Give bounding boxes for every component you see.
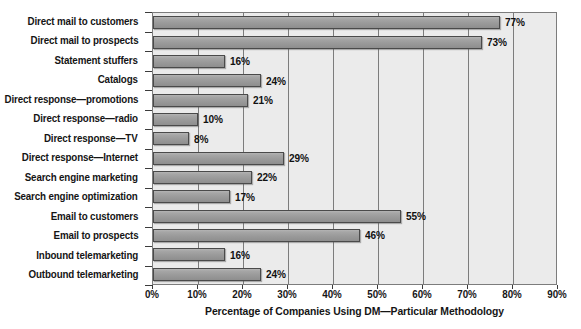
value-tick-label: 60% bbox=[412, 290, 432, 300]
bar[interactable] bbox=[153, 152, 284, 165]
value-tick-label: 80% bbox=[502, 290, 522, 300]
value-tick-label: 90% bbox=[547, 290, 567, 300]
bar-row[interactable]: 22% bbox=[153, 168, 556, 187]
value-tick-label: 0% bbox=[145, 290, 159, 300]
value-tick-label: 20% bbox=[232, 290, 252, 300]
category-tick bbox=[145, 188, 152, 189]
category-label-row: Direct mail to prospects bbox=[0, 32, 144, 52]
category-tick bbox=[145, 110, 152, 111]
bar[interactable] bbox=[153, 210, 401, 223]
bar-row[interactable]: 46% bbox=[153, 226, 556, 245]
category-tick bbox=[145, 90, 152, 91]
bar[interactable] bbox=[153, 171, 252, 184]
bar-value-label: 29% bbox=[289, 153, 309, 164]
bar-series: 77%73%16%24%21%10%8%29%22%17%55%46%16%24… bbox=[153, 13, 556, 284]
bar[interactable] bbox=[153, 248, 225, 261]
category-label-row: Direct response—Internet bbox=[0, 149, 144, 169]
bar-value-label: 8% bbox=[194, 134, 208, 145]
category-label: Catalogs bbox=[98, 75, 138, 85]
x-axis-title: Percentage of Companies Using DM—Particu… bbox=[152, 307, 557, 317]
category-label-row: Direct response—TV bbox=[0, 129, 144, 149]
category-tick bbox=[145, 246, 152, 247]
category-axis-ticks bbox=[145, 12, 152, 285]
bar-value-label: 21% bbox=[253, 95, 273, 106]
category-label-row: Direct response—promotions bbox=[0, 90, 144, 110]
bar-value-label: 24% bbox=[266, 269, 286, 280]
category-label: Search engine marketing bbox=[25, 173, 138, 183]
bar-row[interactable]: 16% bbox=[153, 245, 556, 264]
category-label: Direct response—radio bbox=[33, 114, 138, 124]
category-tick bbox=[145, 168, 152, 169]
bar-row[interactable]: 17% bbox=[153, 187, 556, 206]
bar-row[interactable]: 24% bbox=[153, 265, 556, 284]
category-label: Search engine optimization bbox=[15, 192, 138, 202]
bar-row[interactable]: 77% bbox=[153, 13, 556, 32]
bar[interactable] bbox=[153, 74, 261, 87]
bar-value-label: 77% bbox=[505, 17, 525, 28]
bar-row[interactable]: 55% bbox=[153, 207, 556, 226]
category-tick bbox=[145, 12, 152, 13]
category-label: Direct response—promotions bbox=[4, 95, 138, 105]
bar-row[interactable]: 16% bbox=[153, 52, 556, 71]
bar[interactable] bbox=[153, 190, 230, 203]
value-tick-label: 40% bbox=[322, 290, 342, 300]
category-label-row: Email to prospects bbox=[0, 227, 144, 247]
bar[interactable] bbox=[153, 113, 198, 126]
category-label: Inbound telemarketing bbox=[36, 251, 138, 261]
value-tick-label: 50% bbox=[367, 290, 387, 300]
category-label-row: Inbound telemarketing bbox=[0, 246, 144, 266]
category-label-row: Outbound telemarketing bbox=[0, 266, 144, 286]
category-label-row: Direct response—radio bbox=[0, 110, 144, 130]
bar-value-label: 10% bbox=[203, 114, 223, 125]
category-label-row: Email to customers bbox=[0, 207, 144, 227]
bar-row[interactable]: 10% bbox=[153, 110, 556, 129]
category-tick bbox=[145, 149, 152, 150]
bar[interactable] bbox=[153, 268, 261, 281]
bar-value-label: 24% bbox=[266, 76, 286, 87]
bar[interactable] bbox=[153, 16, 500, 29]
category-tick bbox=[145, 32, 152, 33]
category-tick bbox=[145, 227, 152, 228]
value-axis-labels: 0%10%20%30%40%50%60%70%80%90% bbox=[152, 290, 557, 304]
bar[interactable] bbox=[153, 229, 360, 242]
bar-row[interactable]: 8% bbox=[153, 129, 556, 148]
bar-chart: Direct mail to customersDirect mail to p… bbox=[0, 0, 581, 329]
bar[interactable] bbox=[153, 94, 248, 107]
category-label-row: Direct mail to customers bbox=[0, 12, 144, 32]
category-tick bbox=[145, 129, 152, 130]
category-label: Statement stuffers bbox=[55, 56, 138, 66]
category-label: Email to customers bbox=[50, 212, 138, 222]
bar-value-label: 16% bbox=[230, 250, 250, 261]
bar-value-label: 16% bbox=[230, 56, 250, 67]
bar[interactable] bbox=[153, 55, 225, 68]
category-axis-labels: Direct mail to customersDirect mail to p… bbox=[0, 12, 144, 285]
plot-area: 77%73%16%24%21%10%8%29%22%17%55%46%16%24… bbox=[152, 12, 557, 285]
bar-row[interactable]: 73% bbox=[153, 32, 556, 51]
bar-value-label: 46% bbox=[365, 230, 385, 241]
category-label: Email to prospects bbox=[53, 231, 138, 241]
bar-value-label: 17% bbox=[235, 192, 255, 203]
category-label: Direct response—Internet bbox=[22, 153, 138, 163]
bar-value-label: 22% bbox=[257, 172, 277, 183]
category-tick bbox=[145, 266, 152, 267]
category-label: Direct mail to prospects bbox=[30, 36, 138, 46]
category-label-row: Statement stuffers bbox=[0, 51, 144, 71]
value-tick-label: 30% bbox=[277, 290, 297, 300]
category-label: Outbound telemarketing bbox=[28, 270, 138, 280]
category-label: Direct response—TV bbox=[44, 134, 138, 144]
bar-row[interactable]: 24% bbox=[153, 71, 556, 90]
bar-value-label: 55% bbox=[406, 211, 426, 222]
bar-row[interactable]: 29% bbox=[153, 149, 556, 168]
value-tick-label: 70% bbox=[457, 290, 477, 300]
category-label-row: Search engine optimization bbox=[0, 188, 144, 208]
category-label-row: Search engine marketing bbox=[0, 168, 144, 188]
bar[interactable] bbox=[153, 36, 482, 49]
category-tick bbox=[145, 207, 152, 208]
category-tick bbox=[145, 51, 152, 52]
bar-row[interactable]: 21% bbox=[153, 90, 556, 109]
category-tick bbox=[145, 71, 152, 72]
value-tick-label: 10% bbox=[187, 290, 207, 300]
bar[interactable] bbox=[153, 132, 189, 145]
bar-value-label: 73% bbox=[487, 37, 507, 48]
category-label-row: Catalogs bbox=[0, 71, 144, 91]
